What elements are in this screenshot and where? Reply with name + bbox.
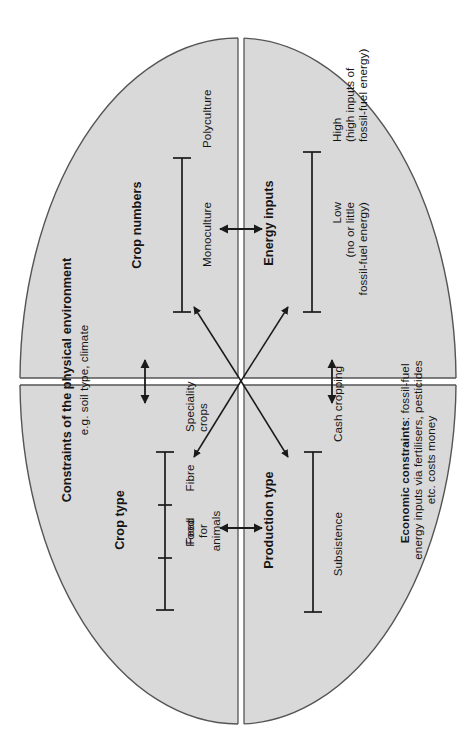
economic-constraints-note: Economic constraints: fossil-fuel energy… [385,310,450,610]
axis-tick-production-type-1: Cash cropping [331,322,344,442]
axis-tick-energy-inputs-1: High (high inputs of fossil-fuel energy) [330,22,369,142]
axis-tick-crop-numbers-1: Polyculture [200,28,213,148]
axis-tick-production-type-0: Subsistence [331,512,344,622]
axis-tick-crop-numbers-0: Monoculture [200,202,213,322]
axis-title-crop-type: Crop type [113,420,127,620]
axis-tick-crop-type-3: Speciality crops [183,322,209,432]
frame-subtitle: e.g. soil type, climate [77,160,90,600]
diagram-canvas: Constraints of the physical environment … [0,0,475,750]
axis-title-energy-inputs: Energy inputs [262,128,276,318]
frame-title: Constraints of the physical environment [60,160,74,600]
economic-constraints-title: Economic constraints [398,420,411,543]
axis-tick-crop-type-2: Fibre [183,428,196,528]
axis-title-production-type: Production type [262,420,276,620]
axis-title-crop-numbers: Crop numbers [130,130,144,320]
axis-tick-energy-inputs-0: Low (no or little fossil-fuel energy) [330,202,369,322]
